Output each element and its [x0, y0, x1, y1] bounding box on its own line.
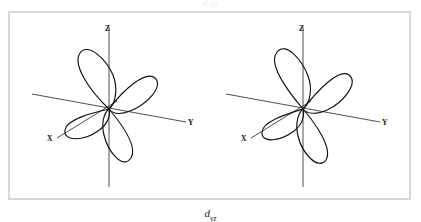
orbital-lobes-right	[262, 49, 352, 164]
lobe-lower-right	[297, 109, 328, 163]
orbital-diagram-left-svg: Z Y X	[12, 13, 212, 198]
lobe-upper-left	[78, 49, 116, 109]
orbital-diagram-right-svg: Z Y X	[206, 13, 406, 198]
caption-orbital-subscript: yz	[210, 214, 217, 222]
lobe-upper-left	[275, 49, 311, 109]
axis-label-x: X	[47, 134, 53, 143]
axis-label-x: X	[241, 134, 247, 143]
lobe-upper-right	[109, 76, 157, 113]
figure-caption: dyz	[0, 201, 421, 222]
figure-frame: Z Y X Z Y X	[8, 11, 411, 200]
cropped-top-caption: d xy	[0, 0, 421, 8]
d-yz-orbital-left: Z Y X	[12, 13, 212, 198]
axis-label-y: Y	[188, 118, 194, 127]
axis-label-z: Z	[299, 24, 304, 33]
lobe-lower-right	[103, 109, 133, 162]
axis-label-y: Y	[382, 118, 388, 127]
axis-label-z: Z	[105, 24, 110, 33]
d-yz-orbital-right: Z Y X	[206, 13, 406, 198]
orbital-lobes-left	[65, 49, 158, 161]
orbital-figure: d xy Z Y X	[0, 0, 421, 222]
